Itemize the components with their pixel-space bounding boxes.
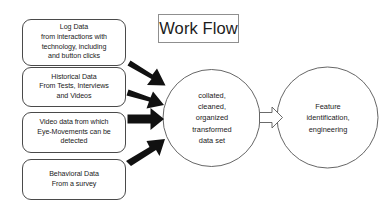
- source-box-video-data[interactable]: Video data from which Eye-Movements can …: [22, 112, 126, 153]
- source-line: technology, including: [42, 43, 107, 53]
- stage-line: Feature: [315, 101, 340, 112]
- inbound-arrow-4-icon: [126, 139, 165, 166]
- source-line: Eye-Movements can be: [37, 128, 111, 138]
- source-line: detected: [61, 137, 88, 147]
- source-line: and Videos: [57, 92, 92, 102]
- feature-circle-label: Feature identification, engineering: [287, 96, 369, 140]
- source-box-historical-data[interactable]: Historical Data From Tests, Interviews a…: [22, 67, 126, 107]
- stage-line: collated,: [198, 90, 226, 101]
- source-line: From a survey: [52, 180, 97, 190]
- inbound-arrow-2-icon: [127, 90, 165, 109]
- source-line: Video data from which: [39, 118, 108, 128]
- workflow-diagram: Work Flow Log Data from interactions wit…: [0, 0, 390, 215]
- source-box-log-data[interactable]: Log Data from interactions with technolo…: [22, 19, 126, 66]
- inbound-arrow-3-icon: [128, 108, 165, 130]
- stage-line: transformed: [192, 124, 231, 135]
- source-line: From Tests, Interviews: [39, 82, 109, 92]
- stage-line: engineering: [309, 124, 348, 135]
- source-line: from interactions with: [41, 33, 107, 43]
- page-title: Work Flow: [159, 19, 238, 38]
- source-line: Behavioral Data: [49, 170, 99, 180]
- dataset-circle-label: collated, cleaned, organized transformed…: [171, 86, 253, 150]
- source-box-behavioral-data[interactable]: Behavioral Data From a survey: [22, 159, 126, 200]
- stage-line: data set: [199, 135, 225, 146]
- stage-line: identification,: [306, 112, 349, 123]
- diagram-title-box: Work Flow: [158, 14, 239, 43]
- source-line: Historical Data: [51, 73, 96, 83]
- inbound-arrow-1-icon: [128, 61, 166, 86]
- stage-line: organized: [196, 112, 228, 123]
- stage-line: cleaned,: [198, 101, 226, 112]
- source-line: and button clicks: [48, 52, 100, 62]
- source-line: Log Data: [60, 23, 88, 33]
